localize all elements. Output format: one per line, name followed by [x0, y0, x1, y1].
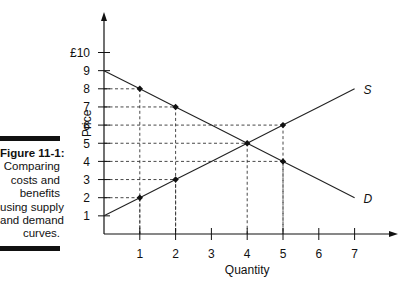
x-tick-label: 2: [172, 247, 179, 261]
y-tick-label: 1: [83, 209, 90, 223]
x-tick-label: 7: [351, 247, 358, 261]
y-tick-label: 3: [83, 173, 90, 187]
y-tick-label: £10: [70, 46, 90, 60]
y-tick-label: 8: [83, 82, 90, 96]
x-tick-label: 1: [136, 247, 143, 261]
x-tick-label: 5: [280, 247, 287, 261]
data-point-marker: [137, 86, 143, 92]
y-tick-label: 9: [83, 64, 90, 78]
data-point-marker: [137, 195, 143, 201]
y-tick-label: 5: [83, 137, 90, 151]
data-point-marker: [280, 158, 286, 164]
x-axis-label: Quantity: [225, 263, 270, 277]
x-tick-label: 4: [244, 247, 251, 261]
supply-demand-chart: 123456789£101234567QuantityPriceSD: [0, 0, 417, 289]
supply-curve-label: S: [364, 83, 372, 97]
data-point-marker: [172, 176, 178, 182]
y-tick-label: 4: [83, 155, 90, 169]
demand-curve-label: D: [364, 192, 373, 206]
x-tick-label: 3: [208, 247, 215, 261]
x-tick-label: 6: [315, 247, 322, 261]
y-axis-label: Price: [80, 109, 94, 137]
data-point-marker: [172, 104, 178, 110]
y-tick-label: 2: [83, 191, 90, 205]
data-point-marker: [244, 140, 250, 146]
data-point-marker: [280, 122, 286, 128]
x-axis-arrow-icon: [389, 231, 398, 237]
y-axis-arrow-icon: [101, 12, 107, 21]
